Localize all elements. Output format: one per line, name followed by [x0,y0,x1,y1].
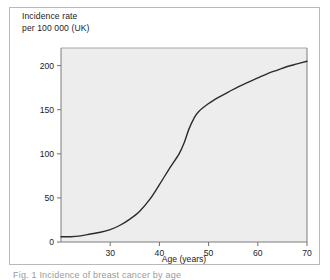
incidence-rate-line-chart: 3040506070 050100150200 Age (years) [0,0,330,280]
x-tick-label: 70 [302,248,312,258]
x-axis-label: Age (years) [162,254,207,264]
figure-caption: Fig. 1 Incidence of breast cancer by age [13,269,317,280]
y-tick-label: 150 [40,105,55,115]
x-tick-labels: 3040506070 [105,248,312,258]
y-tick-label: 0 [49,237,54,247]
y-tick-labels: 050100150200 [40,61,55,247]
y-tick-label: 200 [40,61,55,71]
y-tick-label: 100 [40,149,55,159]
figure-panel: Incidence rate per 100 000 (UK) 30405060… [0,0,330,280]
x-tick-label: 30 [105,248,115,258]
x-tick-label: 60 [253,248,263,258]
chart-plot-area: 3040506070 050100150200 Age (years) [0,0,330,280]
y-tick-label: 50 [44,193,54,203]
